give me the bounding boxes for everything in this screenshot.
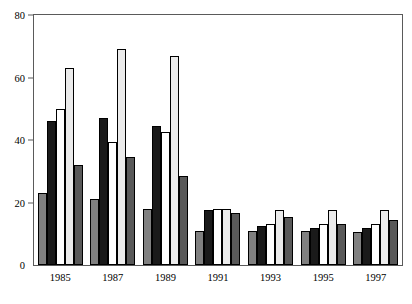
bar-venezuela-1997 — [389, 220, 398, 265]
plot-area — [34, 15, 402, 265]
y-tick-label: 20 — [15, 197, 26, 208]
bar-venezuela-1989 — [179, 176, 188, 265]
x-tick-label: 1985 — [50, 272, 71, 284]
y-tick-label: 60 — [15, 72, 26, 83]
bar-colombia-1993 — [257, 226, 266, 265]
bar-bolivia-1997 — [353, 232, 362, 265]
bar-venezuela-1985 — [74, 165, 83, 265]
x-tick-label: 1995 — [313, 272, 334, 284]
bar-group-1985 — [34, 15, 87, 265]
x-tick-label: 1987 — [102, 272, 123, 284]
bar-peru-1993 — [275, 210, 284, 265]
bar-peru-1995 — [328, 210, 337, 265]
bar-colombia-1995 — [310, 228, 319, 266]
bar-ecuador-1997 — [371, 224, 380, 265]
bar-peru-1991 — [222, 209, 231, 265]
bar-group-1997 — [349, 15, 402, 265]
bar-venezuela-1987 — [126, 157, 135, 265]
bar-group-1995 — [297, 15, 350, 265]
bar-ecuador-1993 — [266, 224, 275, 265]
y-axis: 020406080 — [0, 0, 33, 304]
x-tick-label: 1997 — [365, 272, 386, 284]
bar-colombia-1991 — [204, 210, 213, 265]
x-tick-label: 1989 — [155, 272, 176, 284]
y-tick-label: 80 — [15, 10, 26, 21]
x-tick-label: 1991 — [208, 272, 229, 284]
bar-bolivia-1993 — [248, 231, 257, 265]
bar-ecuador-1995 — [319, 224, 328, 265]
bar-bolivia-1991 — [195, 231, 204, 265]
bar-bolivia-1985 — [38, 193, 47, 265]
bar-group-1989 — [139, 15, 192, 265]
bar-venezuela-1991 — [231, 213, 240, 265]
bar-group-1987 — [87, 15, 140, 265]
bar-ecuador-1989 — [161, 132, 170, 265]
bar-colombia-1997 — [362, 228, 371, 266]
y-tick-label: 40 — [15, 135, 26, 146]
bar-group-1993 — [244, 15, 297, 265]
bar-colombia-1987 — [99, 118, 108, 265]
bar-bolivia-1995 — [301, 231, 310, 265]
bar-peru-1989 — [170, 56, 179, 265]
x-axis: 1985198719891991199319951997 — [34, 272, 402, 292]
bar-bolivia-1989 — [143, 209, 152, 265]
y-tick-label: 0 — [20, 260, 25, 271]
bar-peru-1997 — [380, 210, 389, 265]
bar-colombia-1985 — [47, 121, 56, 265]
bar-bolivia-1987 — [90, 199, 99, 265]
bar-peru-1987 — [117, 49, 126, 265]
bar-chart: BoliviaColombiaEcuadorPeruVenezuela 0204… — [0, 0, 412, 304]
bar-colombia-1989 — [152, 126, 161, 265]
bar-venezuela-1993 — [284, 217, 293, 265]
bar-ecuador-1985 — [56, 109, 65, 265]
bar-group-1991 — [192, 15, 245, 265]
x-tick-label: 1993 — [260, 272, 281, 284]
bar-ecuador-1991 — [213, 209, 222, 265]
bar-ecuador-1987 — [108, 142, 117, 265]
bar-venezuela-1995 — [337, 224, 346, 265]
bar-peru-1985 — [65, 68, 74, 265]
